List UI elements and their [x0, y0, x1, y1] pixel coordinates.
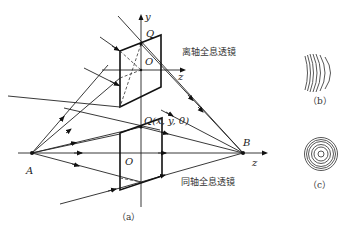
on-axis-lens-label: 同轴全息透镜	[181, 176, 235, 187]
point-Qxy-marker	[139, 125, 142, 128]
y-axis-label: y	[144, 11, 151, 22]
point-A-marker	[30, 151, 34, 155]
point-Q-marker	[139, 42, 142, 45]
point-Q-label: Q	[146, 28, 154, 39]
point-Qxy-label: Q(x, y, 0)	[144, 115, 189, 126]
holographic-lens-diagram: y Q O z Q(x, y, 0) O A B z 离轴全息透镜 同轴全息透镜…	[0, 0, 353, 236]
point-A-label: A	[25, 165, 33, 176]
point-B-marker	[241, 151, 245, 155]
on-axis-zone-plate	[305, 138, 338, 171]
upper-z-axis	[102, 68, 186, 73]
origin-lower-label: O	[125, 156, 133, 167]
off-axis-lens-label: 离轴全息透镜	[182, 46, 236, 57]
incoming-lower-ray	[60, 176, 162, 204]
caption-b: （b）	[308, 96, 332, 106]
main-z-axis	[18, 151, 268, 156]
upper-z-label: z	[177, 71, 184, 82]
off-axis-lens	[120, 35, 161, 107]
main-z-label: z	[251, 157, 258, 168]
origin-upper-label: O	[145, 56, 153, 67]
point-B-label: B	[242, 137, 250, 148]
off-axis-fringe-pattern	[305, 54, 331, 92]
crossing-rays	[8, 37, 160, 130]
caption-c: （c）	[308, 180, 331, 190]
caption-a: （a）	[117, 212, 140, 222]
